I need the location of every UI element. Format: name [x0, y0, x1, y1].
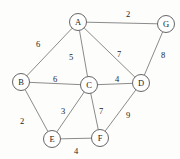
graph-edge-a-d — [84, 28, 135, 77]
graph-node-a: A — [70, 14, 87, 31]
edge-weight-c-d: 4 — [115, 74, 120, 84]
edge-weight-b-e: 2 — [20, 116, 24, 126]
edge-weight-b-c: 6 — [53, 74, 57, 84]
graph-edge-d-f — [105, 90, 136, 131]
graph-edge-e-f — [61, 138, 92, 139]
edge-weight-a-b: 6 — [36, 39, 40, 49]
node-label-d: D — [138, 78, 144, 88]
node-label-b: B — [18, 77, 24, 87]
edge-weight-a-d: 7 — [117, 49, 121, 59]
graph-node-c: C — [81, 77, 98, 94]
edge-weight-e-f: 4 — [74, 146, 79, 156]
graph-edge-a-c — [79, 30, 87, 76]
graph-edge-c-f — [91, 93, 99, 129]
edge-weight-c-e: 3 — [61, 106, 65, 116]
edge-weight-d-f: 9 — [126, 110, 130, 120]
graph-edge-a-b — [27, 28, 72, 76]
graph-node-e: E — [44, 131, 61, 148]
edge-weight-c-f: 7 — [99, 106, 103, 116]
graph-edge-a-g — [87, 22, 158, 24]
graph-node-g: G — [158, 16, 175, 33]
node-label-a: A — [75, 17, 82, 27]
graph-edge-b-e — [25, 89, 48, 131]
edge-weight-a-g: 2 — [126, 9, 130, 19]
edge-weight-g-d: 8 — [161, 50, 165, 60]
node-label-f: F — [98, 133, 103, 143]
node-label-g: G — [163, 19, 169, 29]
edge-weight-a-c: 5 — [69, 52, 73, 62]
graph-canvas: AGBCDEF 265786423794 — [0, 0, 180, 159]
graph-node-d: D — [133, 75, 150, 92]
graph-figure: AGBCDEF 265786423794 — [0, 0, 180, 159]
graph-node-f: F — [92, 130, 109, 147]
node-label-e: E — [49, 134, 54, 144]
node-label-c: C — [86, 80, 92, 90]
nodes-layer: AGBCDEF — [13, 14, 175, 148]
graph-node-b: B — [13, 74, 30, 91]
